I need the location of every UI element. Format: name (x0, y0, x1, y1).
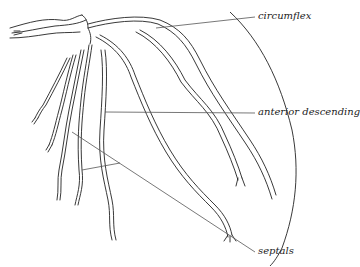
left-main-trunk (10, 15, 91, 44)
anterior-descending-label: anterior descending (258, 107, 360, 117)
circumflex-artery (88, 17, 276, 199)
circumflex-label: circumflex (258, 11, 311, 21)
septal-branches (32, 45, 92, 205)
septals-label: septals (258, 246, 294, 256)
descending-branch (100, 50, 116, 240)
anterior-descending-artery (96, 35, 236, 242)
anterior-descending-leader (105, 112, 255, 113)
heart-outline (230, 12, 296, 266)
septals-leader (72, 132, 255, 252)
